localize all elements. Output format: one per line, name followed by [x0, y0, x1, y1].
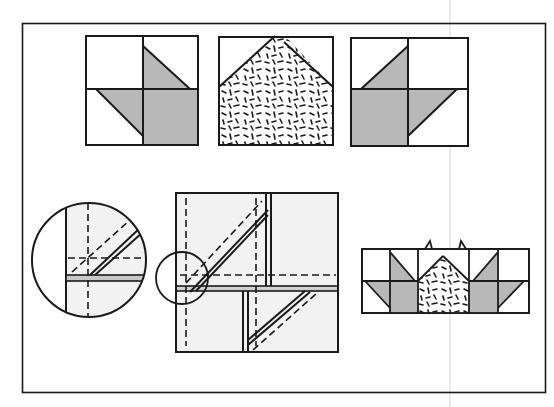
magnified-detail: [32, 200, 156, 320]
sewing-layout: [176, 193, 338, 352]
assembled-strip: [362, 241, 529, 313]
block-right: [351, 38, 468, 146]
block-left: [86, 36, 198, 145]
quilt-diagram: [0, 0, 554, 407]
block-center-print: [219, 36, 333, 145]
